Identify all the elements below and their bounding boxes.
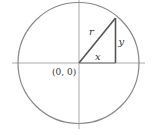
label-r: r bbox=[89, 26, 95, 37]
origin-label: (0, 0) bbox=[52, 67, 76, 77]
label-x: x bbox=[95, 51, 101, 62]
label-y: y bbox=[118, 36, 125, 47]
unit-circle-diagram: r x y (0, 0) bbox=[0, 0, 156, 135]
